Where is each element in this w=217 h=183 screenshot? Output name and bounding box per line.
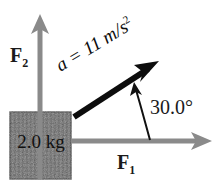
angle-arc-head (130, 82, 142, 96)
force-label-f1: F1 (117, 152, 135, 176)
force-label-f1-subscript: 1 (129, 163, 135, 177)
force-label-f2-subscript: 2 (22, 56, 28, 70)
force-diagram-figure: F2 F1 30.0° 2.0 kg a = 11 m/s2 (0, 0, 217, 183)
angle-arc (130, 82, 150, 140)
force-label-f2: F2 (10, 45, 28, 69)
force-label-f1-text: F (117, 151, 129, 173)
force-label-f2-text: F (10, 44, 22, 66)
mass-label: 2.0 kg (12, 131, 70, 153)
angle-label: 30.0° (150, 97, 193, 117)
acceleration-vector (74, 61, 159, 117)
angle-arc-path (136, 90, 150, 140)
force-vector-f1 (71, 132, 212, 150)
